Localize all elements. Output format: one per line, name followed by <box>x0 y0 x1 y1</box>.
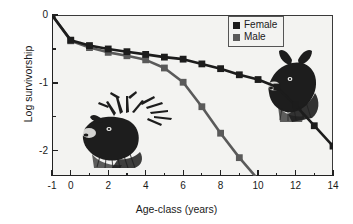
data-point-marker <box>67 37 74 44</box>
x-tick-major <box>332 170 333 176</box>
y-tick-minor <box>52 48 56 49</box>
y-tick-minor <box>52 116 56 117</box>
data-point-marker <box>142 51 149 58</box>
data-point-marker <box>217 130 224 137</box>
x-tick-minor <box>164 173 165 177</box>
data-point-marker <box>180 79 187 86</box>
x-tick-major <box>220 170 221 176</box>
x-tick-major <box>145 170 146 176</box>
x-tick-label: 12 <box>284 180 308 191</box>
legend-label-male: Male <box>244 31 266 43</box>
legend-entry-female: Female <box>233 19 277 31</box>
survivorship-chart-figure: -1024681012140-1-2 Female Male Age-class… <box>0 0 353 224</box>
data-point-marker <box>198 103 205 110</box>
y-tick-major <box>52 150 58 151</box>
y-axis-title: Log survivorship <box>22 4 34 164</box>
data-point-marker <box>255 76 262 83</box>
data-point-marker <box>124 48 131 55</box>
x-tick-minor <box>239 173 240 177</box>
x-tick-label: 14 <box>321 180 345 191</box>
x-tick-minor <box>126 173 127 177</box>
x-tick-major <box>70 170 71 176</box>
data-point-marker <box>198 61 205 68</box>
data-point-marker <box>217 65 224 72</box>
series-line-female <box>52 15 333 146</box>
x-tick-label: 4 <box>134 180 158 191</box>
legend: Female Male <box>228 16 284 47</box>
data-point-marker <box>236 154 243 161</box>
x-tick-label: 8 <box>209 180 233 191</box>
data-point-marker <box>273 84 280 91</box>
x-tick-label: 6 <box>171 180 195 191</box>
y-tick-major <box>52 82 58 83</box>
x-tick-major <box>295 170 296 176</box>
legend-label-female: Female <box>244 19 277 31</box>
x-tick-major <box>108 170 109 176</box>
data-point-marker <box>161 65 168 72</box>
series-female <box>49 12 337 150</box>
x-tick-minor <box>276 173 277 177</box>
legend-entry-male: Male <box>233 31 277 43</box>
data-point-marker <box>105 46 112 53</box>
legend-swatch-male <box>233 34 240 41</box>
legend-swatch-female <box>233 22 240 29</box>
data-point-marker <box>292 102 299 109</box>
x-tick-minor <box>89 173 90 177</box>
data-point-marker <box>311 122 318 129</box>
x-tick-major <box>51 170 52 176</box>
data-point-marker <box>161 54 168 61</box>
x-tick-major <box>257 170 258 176</box>
data-point-marker <box>236 71 243 78</box>
x-tick-minor <box>314 173 315 177</box>
x-tick-major <box>183 170 184 176</box>
data-point-marker <box>86 42 93 49</box>
data-point-marker <box>180 56 187 63</box>
x-tick-label: 0 <box>59 180 83 191</box>
y-tick-major <box>52 14 58 15</box>
x-axis-title: Age-class (years) <box>0 203 353 215</box>
x-tick-minor <box>201 173 202 177</box>
data-point-marker <box>330 143 337 150</box>
x-tick-label: 10 <box>246 180 270 191</box>
x-tick-label: 2 <box>96 180 120 191</box>
